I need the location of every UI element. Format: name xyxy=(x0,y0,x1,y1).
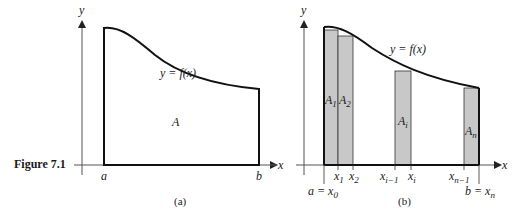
tick-x2: x2 xyxy=(348,169,359,185)
x-label-a: a xyxy=(101,169,107,183)
curve-label: y = f(x) xyxy=(159,66,196,80)
area-label: A xyxy=(171,115,180,129)
region-boundary xyxy=(104,28,259,165)
panel-a-label: (a) xyxy=(174,195,187,208)
b-equals-xn: b = xn xyxy=(465,184,495,200)
tick-x1: x1 xyxy=(333,169,344,185)
riemann-sum-figure: Figure 7.1 y y = f(x) A a b (a) x y x xyxy=(0,0,530,219)
figure-caption: Figure 7.1 xyxy=(14,157,66,171)
x-label-b: b xyxy=(256,169,262,183)
y-axis-label: y xyxy=(78,3,85,17)
x-axis-label-left: x xyxy=(277,158,284,172)
y-axis-label: y xyxy=(300,3,307,17)
tick-xi-1: xi−1 xyxy=(379,169,398,185)
x-axis-label: x xyxy=(501,158,508,172)
panel-b-label: (b) xyxy=(398,195,411,208)
curve-label: y = f(x) xyxy=(389,42,426,56)
tick-xn-1: xn−1 xyxy=(448,169,469,185)
panel-a: y y = f(x) A a b (a) xyxy=(74,3,276,208)
panel-b: x y x y = f(x) A1 A2 Ai An x1 x2 xi xyxy=(270,3,508,208)
a-equals-x0: a = x0 xyxy=(308,184,338,200)
tick-xi: xi xyxy=(407,169,416,185)
